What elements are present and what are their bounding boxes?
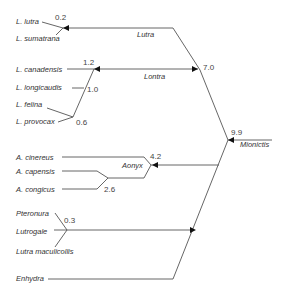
main-trunk [173,70,272,279]
node-value: 4.2 [150,152,162,161]
taxon-label: L. longicaudis [16,83,62,92]
clade-label-lontra: Lontra [144,72,165,81]
clade-label-lutra: Lutra [137,30,154,39]
clade-label-mionictis: Mionictis [240,140,269,149]
aonyx-arrow-icon [152,162,158,168]
node-value: 1.2 [83,58,95,67]
taxon-label: L. canadensis [16,65,63,74]
node-value: 0.2 [55,13,67,22]
taxon-label: L. provocax [16,117,55,126]
node-value: 0.3 [64,216,76,225]
taxon-label: Lutra maculicollis [16,247,74,256]
lutrogale-clade-branches [54,213,196,247]
taxon-label: L. lutra [16,17,39,26]
node-value: 1.0 [87,85,99,94]
lontra-arrow-icon [192,66,198,72]
taxon-label: L. sumatrana [16,34,60,43]
taxon-label: A. congicus [15,185,55,194]
taxon-label: Enhydra [16,274,44,283]
phylogenetic-tree-diagram: L. lutra L. sumatrana L. canadensis L. l… [0,0,285,291]
lutra-arrow-icon [63,25,69,31]
node-value: 9.9 [231,128,243,137]
taxon-label: A. cinereus [15,153,54,162]
node-value: 0.6 [76,118,88,127]
taxon-label: L. felina [16,100,42,109]
taxon-label: A. capensis [15,167,55,176]
taxon-label: Lutrogale [16,227,47,236]
lutra-clade-branches [42,22,200,70]
taxon-label: Pteronura [16,209,49,218]
mionictis-arrow-icon [228,137,234,143]
lontra-inner-arrow-icon [94,66,100,72]
node-value: 2.6 [104,185,116,194]
clade-label-aonyx: Aonyx [121,161,143,170]
node-value: 7.0 [203,63,215,72]
lontra-clade-branches [47,66,198,122]
